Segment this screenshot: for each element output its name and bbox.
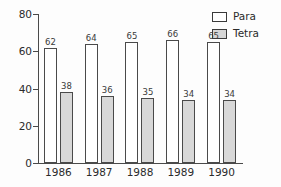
bar-value-label: 62 <box>45 38 56 47</box>
y-axis-tick-label: 40 <box>0 84 32 94</box>
bar-group: 6535 <box>121 14 162 163</box>
y-axis-tick-label: 60 <box>0 46 32 56</box>
bar-value-label: 35 <box>143 88 154 97</box>
bar-tetra-1988: 35 <box>141 98 154 163</box>
bar-para-1989: 66 <box>166 40 179 163</box>
y-axis-tick <box>33 163 39 164</box>
plot-area: 62386436653566346534 <box>39 14 243 163</box>
bar-value-label: 34 <box>183 90 194 99</box>
bar-value-label: 36 <box>102 86 113 95</box>
bar-value-label: 65 <box>208 32 219 41</box>
bar-para-1987: 64 <box>85 44 98 163</box>
bar-group: 6238 <box>39 14 80 163</box>
bar-group: 6534 <box>202 14 243 163</box>
bar-value-label: 38 <box>61 82 72 91</box>
bar-tetra-1989: 34 <box>182 100 195 163</box>
bar-tetra-1990: 34 <box>223 100 236 163</box>
x-axis-label-1986: 1986 <box>36 167 81 178</box>
y-axis-tick-label: 80 <box>0 9 32 19</box>
bar-para-1990: 65 <box>207 42 220 163</box>
bar-value-label: 34 <box>224 90 235 99</box>
bar-value-label: 64 <box>86 34 97 43</box>
bar-value-label: 66 <box>167 30 178 39</box>
y-axis-tick-label: 0 <box>0 158 32 168</box>
bar-group: 6436 <box>80 14 121 163</box>
bar-group: 6634 <box>161 14 202 163</box>
x-axis-label-1988: 1988 <box>118 167 163 178</box>
x-axis-label-1987: 1987 <box>77 167 122 178</box>
x-axis-line <box>38 163 243 164</box>
y-axis-tick-label: 20 <box>0 121 32 131</box>
x-axis-label-1989: 1989 <box>158 167 203 178</box>
bar-tetra-1986: 38 <box>60 92 73 163</box>
x-axis-label-1990: 1990 <box>199 167 244 178</box>
bar-value-label: 65 <box>127 32 138 41</box>
bar-para-1988: 65 <box>125 42 138 163</box>
bar-tetra-1987: 36 <box>101 96 114 163</box>
bar-chart: Para Tetra 020406080 6238643665356634653… <box>0 0 281 187</box>
bar-para-1986: 62 <box>44 48 57 163</box>
